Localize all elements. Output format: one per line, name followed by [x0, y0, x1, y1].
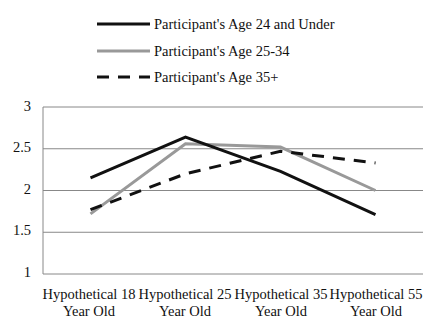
legend-label: Participant's Age 25-34 [154, 43, 290, 60]
y-tick-label: 2.5 [1, 139, 31, 156]
legend-label: Participant's Age 35+ [154, 69, 278, 86]
x-tick-line1: Hypothetical 18 [41, 286, 137, 303]
x-tick-label: Hypothetical 18 Year Old [41, 286, 137, 320]
y-tick-label: 3 [1, 98, 31, 115]
legend-label: Participant's Age 24 and Under [154, 16, 335, 33]
y-tick-label: 1 [1, 264, 31, 281]
x-tick-label: Hypothetical 55 Year Old [328, 286, 424, 320]
legend-swatches [97, 24, 150, 77]
x-tick-line1: Hypothetical 35 [233, 286, 329, 303]
x-tick-line2: Year Old [233, 303, 329, 320]
x-tick-label: Hypothetical 25 Year Old [137, 286, 233, 320]
x-tick-line1: Hypothetical 25 [137, 286, 233, 303]
x-tick-line2: Year Old [137, 303, 233, 320]
gridlines [43, 107, 423, 274]
x-tick-line2: Year Old [41, 303, 137, 320]
y-tick-label: 2 [1, 181, 31, 198]
x-tick-line2: Year Old [328, 303, 424, 320]
y-tick-label: 1.5 [1, 222, 31, 239]
x-tick-label: Hypothetical 35 Year Old [233, 286, 329, 320]
x-tick-line1: Hypothetical 55 [328, 286, 424, 303]
